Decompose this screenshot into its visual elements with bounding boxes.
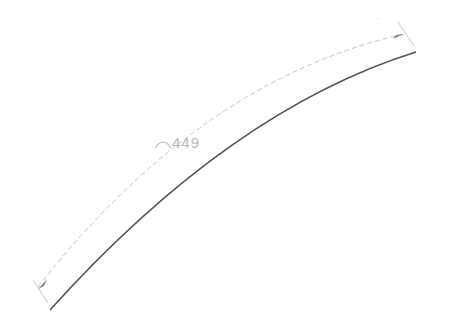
extension-line-end	[398, 22, 414, 46]
main-arc	[50, 52, 416, 310]
arc-dimension-drawing	[0, 0, 455, 322]
arc-length-dimension-label: 449	[154, 135, 200, 151]
faint-mark	[377, 18, 379, 20]
arrowhead-start-icon	[38, 279, 47, 289]
arc-length-icon	[154, 138, 172, 148]
dimension-value: 449	[172, 134, 200, 151]
dimension-arc	[38, 34, 404, 287]
